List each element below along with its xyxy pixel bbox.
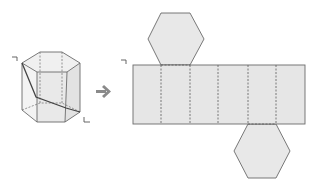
prism-net [121,13,305,178]
net-lateral-rectangle [133,65,305,124]
hexagonal-prism [12,52,90,122]
label-start-marker [12,57,17,61]
net-bottom-hexagon [234,124,290,178]
arrow-right-icon [96,85,111,98]
diagram-canvas [0,0,319,186]
net-label-start-marker [121,60,126,64]
net-top-hexagon [148,13,204,65]
prism-front-face-middle [37,72,67,122]
label-end-marker [84,117,90,122]
